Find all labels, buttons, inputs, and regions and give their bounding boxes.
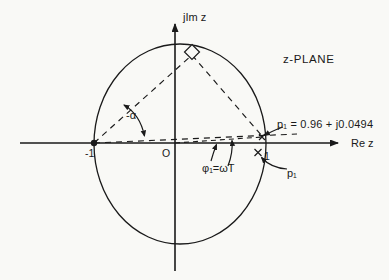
unit-circle — [94, 44, 266, 244]
pole-value-label: p₁ = 0.96 + j0.0494 — [277, 118, 373, 130]
tick-one-label: 1 — [264, 150, 270, 162]
alpha-angle-label: -α — [126, 109, 137, 121]
minus-one-point — [91, 140, 97, 146]
phi-angle-label: φ₁=ωT — [202, 162, 235, 174]
pole-p1-conjugate-marker — [255, 149, 262, 156]
phi-angle-arrow-left — [211, 145, 217, 162]
z-plane-diagram: jIm z Re z z-PLANE p₁ = 0.96 + j0.0494 O… — [0, 0, 389, 280]
pole-conjugate-label: p₁ — [287, 167, 297, 179]
imag-axis-label: jIm z — [182, 11, 206, 23]
right-angle-diamond-marker — [185, 45, 200, 60]
chord-apex-to-pole — [192, 55, 262, 136]
real-axis-label: Re z — [351, 137, 374, 149]
tick-minus-one-label: -1 — [85, 147, 94, 159]
plane-title: z-PLANE — [283, 53, 335, 65]
z-plane-canvas: jIm z Re z z-PLANE p₁ = 0.96 + j0.0494 O… — [0, 0, 389, 280]
origin-label: O — [162, 147, 170, 159]
